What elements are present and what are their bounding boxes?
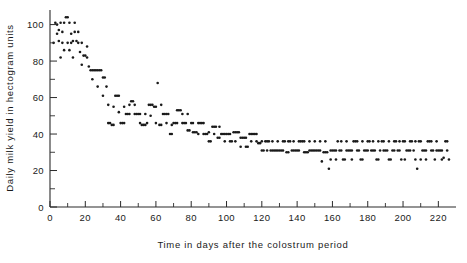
x-axis-title: Time in days after the colostrum period — [157, 239, 348, 250]
data-point — [298, 140, 301, 143]
data-point — [61, 42, 64, 45]
x-tick-label: 20 — [80, 212, 91, 223]
data-point — [59, 21, 62, 24]
data-point — [361, 158, 364, 161]
data-point — [343, 158, 346, 161]
data-point — [419, 158, 422, 161]
data-point — [234, 140, 237, 143]
data-point — [63, 21, 66, 24]
data-point — [188, 129, 191, 132]
data-point — [239, 146, 242, 149]
data-point — [351, 158, 354, 161]
data-point — [68, 49, 71, 52]
data-point — [425, 158, 428, 161]
data-point — [287, 151, 290, 154]
data-point — [414, 140, 417, 143]
y-tick-label: 0 — [38, 202, 44, 213]
y-tick-label: 20 — [33, 165, 44, 176]
data-point-layer — [52, 16, 450, 170]
data-point — [324, 140, 327, 143]
data-point — [181, 113, 184, 116]
data-point — [395, 140, 398, 143]
data-point — [313, 140, 316, 143]
data-point — [112, 124, 115, 127]
data-point — [63, 49, 66, 52]
data-point — [223, 140, 226, 143]
data-point — [192, 122, 195, 125]
data-point — [283, 140, 286, 143]
data-point — [441, 149, 444, 152]
data-point — [276, 140, 279, 143]
data-point — [72, 40, 75, 43]
data-point — [287, 140, 290, 143]
data-point — [414, 158, 417, 161]
data-point — [103, 76, 106, 79]
x-tick-label: 120 — [253, 212, 270, 223]
data-point — [73, 21, 76, 24]
data-point — [435, 149, 438, 152]
data-point — [361, 140, 364, 143]
data-point — [61, 31, 64, 34]
data-point — [185, 122, 188, 125]
data-point — [56, 32, 59, 35]
y-tick-layer: 020406080100 — [27, 19, 57, 212]
data-point — [66, 42, 69, 45]
data-point — [107, 104, 110, 107]
data-point — [448, 158, 451, 161]
data-point — [132, 100, 135, 103]
data-point — [377, 158, 380, 161]
data-point — [66, 16, 69, 19]
data-point — [425, 149, 428, 152]
data-point — [366, 149, 369, 152]
data-point — [246, 146, 249, 149]
x-tick-label: 180 — [359, 212, 376, 223]
data-point — [176, 122, 179, 125]
scatter-plot-figure: 020406080100120140160180200220 020406080… — [0, 0, 467, 263]
data-point — [59, 56, 62, 59]
data-point — [416, 167, 419, 170]
data-point — [292, 140, 295, 143]
data-point — [171, 133, 174, 136]
data-point — [345, 140, 348, 143]
data-point — [412, 149, 415, 152]
data-point — [409, 149, 412, 152]
data-point — [321, 160, 324, 163]
data-point — [77, 31, 80, 34]
data-point — [335, 158, 338, 161]
data-point — [326, 151, 329, 154]
data-point — [118, 94, 121, 97]
y-tick-label: 80 — [33, 56, 44, 67]
data-point — [255, 133, 258, 136]
data-point — [80, 63, 83, 66]
data-point — [100, 69, 103, 72]
data-point — [430, 140, 433, 143]
data-point — [105, 85, 108, 88]
data-point — [393, 149, 396, 152]
data-point — [139, 122, 142, 125]
data-point — [404, 158, 407, 161]
data-point — [298, 149, 301, 152]
data-point — [218, 136, 221, 139]
chart-canvas: 020406080100120140160180200220 020406080… — [0, 0, 467, 263]
data-point — [179, 109, 182, 112]
data-point — [79, 51, 82, 54]
data-point — [86, 45, 89, 48]
data-point — [386, 149, 389, 152]
data-point — [319, 149, 322, 152]
data-point — [351, 149, 354, 152]
data-point — [336, 140, 339, 143]
data-point — [70, 32, 73, 35]
data-point — [149, 115, 152, 118]
data-point — [160, 124, 163, 127]
data-point — [165, 122, 168, 125]
x-tick-layer: 020406080100120140160180200220 — [47, 201, 447, 223]
data-point — [160, 104, 163, 107]
data-point — [435, 140, 438, 143]
data-point — [72, 56, 75, 59]
x-tick-label: 80 — [186, 212, 197, 223]
data-point — [86, 56, 89, 59]
data-point — [139, 113, 142, 116]
x-tick-label: 200 — [395, 212, 412, 223]
data-point — [446, 149, 449, 152]
data-point — [156, 82, 159, 85]
